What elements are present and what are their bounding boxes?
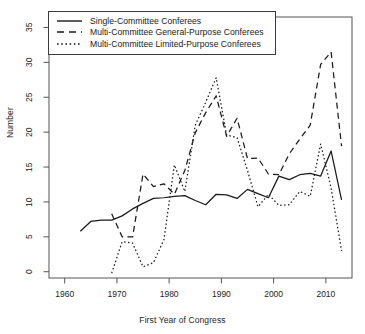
legend-item: Multi-Committee Limited-Purpose Conferee… xyxy=(49,38,275,50)
single-committee-key xyxy=(56,16,83,26)
general-purpose-key xyxy=(56,27,83,37)
limited-purpose-key xyxy=(56,39,83,49)
data-series-group xyxy=(80,52,341,273)
legend-label: Single-Committee Conferees xyxy=(90,16,201,26)
x-axis-title: First Year of Congress xyxy=(0,315,365,325)
x-axis-ticks xyxy=(65,278,326,284)
y-axis-ticks xyxy=(44,27,50,271)
chart-figure: First Year of Congress Number 1960197019… xyxy=(0,0,365,334)
legend-label: Multi-Committee Limited-Purpose Conferee… xyxy=(90,39,261,49)
plot-frame xyxy=(49,17,352,278)
x-tick-label: 1980 xyxy=(160,289,179,299)
x-tick-label: 2000 xyxy=(264,289,283,299)
x-tick-label: 2010 xyxy=(316,289,335,299)
x-tick-label: 1960 xyxy=(55,289,74,299)
x-tick-label: 1990 xyxy=(212,289,231,299)
y-axis-title: Number xyxy=(5,107,15,138)
y-tick-label: 30 xyxy=(24,58,34,67)
series-line xyxy=(112,78,342,273)
legend-item: Single-Committee Conferees xyxy=(49,15,275,27)
y-tick-label: 25 xyxy=(24,93,34,102)
y-tick-label: 10 xyxy=(24,197,34,206)
y-tick-label: 20 xyxy=(24,127,34,136)
chart-legend: Single-Committee Conferees Multi-Committ… xyxy=(48,11,276,55)
series-line xyxy=(80,151,341,231)
y-tick-label: 35 xyxy=(24,23,34,32)
legend-item: Multi-Committee General-Purpose Conferee… xyxy=(49,27,275,39)
y-tick-label: 0 xyxy=(24,269,34,274)
y-tick-label: 5 xyxy=(24,234,34,239)
y-tick-label: 15 xyxy=(24,162,34,171)
series-line xyxy=(112,52,342,237)
legend-label: Multi-Committee General-Purpose Conferee… xyxy=(90,27,264,37)
x-tick-label: 1970 xyxy=(107,289,126,299)
